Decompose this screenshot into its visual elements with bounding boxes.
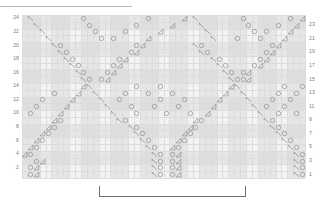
row-label-left-10: 10 [3,110,19,115]
row-label-left-24: 24 [3,15,19,20]
grid-line-horizontal [22,15,305,16]
grid-line-horizontal [22,171,305,172]
row-label-left-8: 8 [3,124,19,129]
row-label-right-15: 15 [309,77,324,82]
grid-line-horizontal [22,130,305,131]
grid-line-horizontal [22,110,305,111]
row-label-right-19: 19 [309,49,324,54]
row-label-right-17: 17 [309,63,324,68]
grid-line-horizontal [22,29,305,30]
grid-line-horizontal [22,158,305,159]
row-label-left-22: 22 [3,29,19,34]
grid-line-horizontal [22,63,305,64]
row-label-left-6: 6 [3,138,19,143]
row-label-left-14: 14 [3,83,19,88]
grid-line-horizontal [22,137,305,138]
grid-line-horizontal [22,49,305,50]
grid-line-horizontal [22,164,305,165]
row-label-left-12: 12 [3,97,19,102]
grid-line-horizontal [22,178,305,179]
row-label-left-18: 18 [3,56,19,61]
row-label-right-5: 5 [309,144,324,149]
row-label-right-3: 3 [309,158,324,163]
grid-line-horizontal [22,124,305,125]
grid-line-horizontal [22,97,305,98]
grid-line-vertical [305,15,306,178]
row-label-right-21: 21 [309,36,324,41]
grid-line-horizontal [22,103,305,104]
grid-line-horizontal [22,117,305,118]
grid-line-horizontal [22,35,305,36]
row-label-left-2: 2 [3,165,19,170]
grid-line-horizontal [22,69,305,70]
grid-line-horizontal [22,76,305,77]
repeat-bracket [99,186,246,197]
grid-line-horizontal [22,56,305,57]
row-label-left-16: 16 [3,70,19,75]
row-label-right-1: 1 [309,172,324,177]
grid-line-horizontal [22,151,305,152]
grid-line-horizontal [22,83,305,84]
row-label-right-11: 11 [309,104,324,109]
row-label-right-23: 23 [309,22,324,27]
row-label-right-9: 9 [309,117,324,122]
grid-line-horizontal [22,90,305,91]
row-label-left-4: 4 [3,151,19,156]
chart-grid [22,15,305,178]
grid-line-horizontal [22,22,305,23]
grid-line-horizontal [22,144,305,145]
grid-line-horizontal [22,42,305,43]
lace-chart: 24222018161412108642 2321191715131197531 [0,0,324,207]
row-label-left-20: 20 [3,43,19,48]
row-label-right-7: 7 [309,131,324,136]
row-label-right-13: 13 [309,90,324,95]
